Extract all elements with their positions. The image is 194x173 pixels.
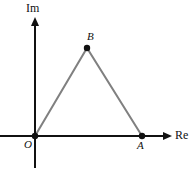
imaginary-axis-arrowhead	[31, 17, 39, 26]
real-axis-label: Re	[175, 129, 188, 141]
complex-plane-figure: Im Re O A B	[0, 0, 194, 173]
triangle-sides	[35, 48, 142, 136]
imaginary-axis-label: Im	[26, 2, 39, 14]
real-axis-arrowhead	[163, 132, 172, 140]
point-o-dot	[32, 133, 38, 139]
point-label-a: A	[137, 140, 144, 151]
point-b-dot	[84, 45, 90, 51]
point-label-b: B	[87, 31, 94, 42]
point-label-o: O	[24, 139, 32, 150]
